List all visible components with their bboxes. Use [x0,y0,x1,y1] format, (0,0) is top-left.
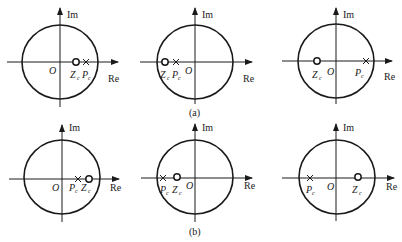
zero-label: Z [172,184,178,195]
panel-a2: Im Re O Z c P c [140,8,255,104]
pole-zero-diagram-figure: Im Re O Z c P c Im Re O Z c P c Im [0,0,402,242]
im-label: Im [202,9,213,20]
zero-subscript: c [167,75,170,81]
zero-subscript: c [179,190,182,196]
pole-subscript: c [75,188,78,194]
origin-label: O [327,181,334,192]
re-label: Re [384,71,396,82]
pole-subscript: c [88,75,91,81]
zero-label: Z [81,182,87,193]
re-label: Re [243,73,255,84]
re-label: Re [108,73,120,84]
pole-subscript: c [166,190,169,196]
zero-marker-icon [73,59,79,65]
caption-a: (a) [189,107,200,119]
origin-label: O [49,65,56,76]
caption-b: (b) [189,226,201,238]
pole-subscript: c [312,190,315,196]
re-label: Re [244,180,256,191]
zero-label: Z [352,184,358,195]
zero-marker-icon [86,176,92,182]
zero-marker-icon [314,58,320,64]
zero-marker-icon [355,174,361,180]
pole-subscript: c [178,75,181,81]
zero-subscript: c [319,75,322,81]
im-label: Im [343,9,354,20]
im-label: Im [343,122,354,133]
panel-a1: Im Re O Z c P c [7,8,120,107]
panel-b3: Im Re O P c Z c [282,122,398,221]
im-label: Im [69,122,80,133]
re-label: Re [386,181,398,192]
zero-marker-icon [162,59,168,65]
im-label: Im [67,9,78,20]
zero-label: Z [160,69,166,80]
origin-label: O [52,182,59,193]
pole-subscript: c [361,73,364,79]
zero-label: Z [312,69,318,80]
origin-label: O [327,66,334,77]
zero-marker-icon [174,174,180,180]
re-label: Re [110,182,122,193]
panel-b2: Im Re O P c Z c [141,122,256,222]
origin-label: O [185,65,192,76]
zero-subscript: c [359,190,362,196]
panel-a3: Im Re O Z c P c [282,8,396,104]
im-label: Im [202,122,213,133]
zero-subscript: c [88,188,91,194]
zero-subscript: c [77,75,80,81]
zero-label: Z [70,69,76,80]
origin-label: O [186,180,193,191]
panel-b1: Im Re O P c Z c [9,122,122,222]
